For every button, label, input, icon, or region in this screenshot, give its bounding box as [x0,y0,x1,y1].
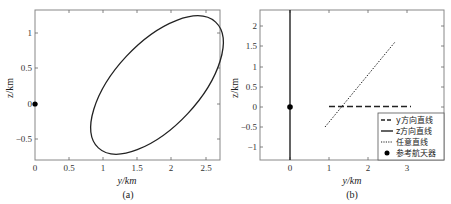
reference-spacecraft-marker [287,104,293,110]
y-axis-label: z/km [4,78,15,98]
x-tick-label: 0 [33,163,38,173]
legend: y方向直线 z方向直线 任意直线 参考航天器 [378,113,444,160]
legend-label-reference-spacecraft: 参考航天器 [396,148,436,158]
y-tick-label: 0 [253,102,258,112]
reference-spacecraft-marker [32,101,37,106]
panel-caption: (b) [346,189,358,201]
x-tick-label: 2 [169,163,174,173]
y-tick-label: 0 [28,99,33,109]
y-tick-label: −0.5 [16,134,33,144]
panel-b: 0 1 2 3 2 1.5 1 0.5 0 −0.5 −1 y方向直线 z方向直… [229,10,444,201]
legend-label-arbitrary-line: 任意直线 [396,137,428,147]
x-tick-label: 0.5 [63,163,75,173]
y-tick-label: 2 [253,21,258,31]
y-tick-label: −1 [247,142,257,152]
y-tick-label: 1.5 [246,41,258,51]
x-tick-label: 1.5 [131,163,143,173]
x-axis-label: y/km [117,175,137,186]
plot-frame-a [35,10,220,160]
y-ticks-a [35,33,220,139]
y-tick-label: −0.5 [241,122,258,132]
x-axis-label: y/km [342,175,362,186]
legend-label-y-line: y方向直线 [396,115,433,125]
x-tick-label: 1 [101,163,106,173]
y-axis-label: z/km [229,78,240,98]
y-tick-label: 1 [28,28,33,38]
x-tick-label: 3 [405,163,410,173]
figure: 0 0.5 1 1.5 2 2.5 1 0.5 0 −0.5 y/km z/km… [0,0,451,204]
legend-marker-swatch [385,151,390,156]
x-tick-label: 1 [327,163,332,173]
y-tick-label: 0.5 [246,82,258,92]
x-tick-label: 0 [288,163,293,173]
panel-a: 0 0.5 1 1.5 2 2.5 1 0.5 0 −0.5 y/km z/km… [4,0,246,201]
y-tick-label: 1 [253,62,258,72]
y-tick-label: 0.5 [21,63,33,73]
panel-caption: (a) [122,189,133,201]
x-tick-label: 2 [366,163,371,173]
x-ticks-a [69,10,206,160]
x-tick-label: 2.5 [200,163,212,173]
legend-label-z-line: z方向直线 [396,126,432,136]
